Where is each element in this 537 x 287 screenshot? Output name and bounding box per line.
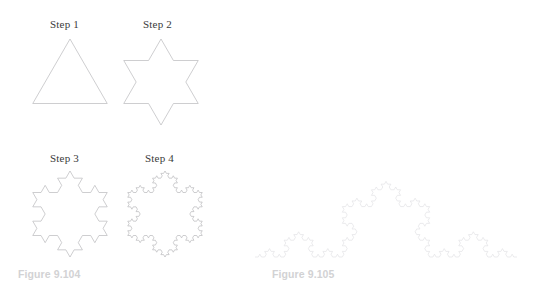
step-4-shape <box>120 166 210 266</box>
figure-9-105-caption: Figure 9.105 <box>272 268 334 280</box>
step-3-shape <box>26 166 116 266</box>
step-2-label: Step 2 <box>143 18 172 30</box>
step-1-label: Step 1 <box>50 18 79 30</box>
koch-curve-shape <box>251 181 521 263</box>
step-2-shape <box>118 32 204 134</box>
figure-9-104-caption: Figure 9.104 <box>18 268 80 280</box>
step-3-label: Step 3 <box>50 152 79 164</box>
figure-page: Step 1 Step 2 Step 3 Step 4 Figure 9.104… <box>0 0 537 287</box>
step-4-label: Step 4 <box>145 152 174 164</box>
step-1-shape <box>28 32 114 120</box>
